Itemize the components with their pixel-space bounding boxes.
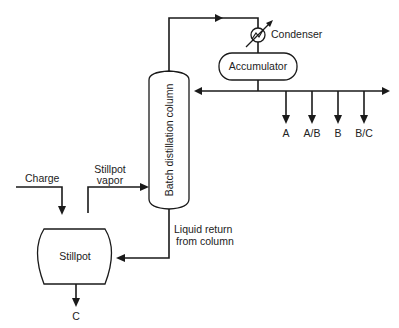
stillpot-vapor-arrow: [140, 183, 149, 191]
product-arrow-bc: [360, 115, 368, 124]
charge-label: Charge: [25, 172, 60, 184]
liquid-return-label-line2: from column: [176, 235, 234, 247]
overhead-flow-arrow: [215, 14, 223, 22]
bottoms-arrow: [72, 298, 80, 307]
condenser-label: Condenser: [271, 28, 323, 40]
product-label-bc: B/C: [355, 127, 373, 139]
reflux-arrow: [194, 87, 202, 95]
liquid-return-line: [124, 209, 169, 258]
accumulator-label: Accumulator: [229, 60, 288, 72]
batch-distillation-diagram: Condenser Accumulator A A/B B B/C Batch …: [0, 0, 399, 328]
product-label-b: B: [334, 127, 341, 139]
charge-arrow: [58, 206, 66, 215]
stillpot-vapor-label-line2: vapor: [97, 174, 124, 186]
header-outlet-arrow: [382, 87, 390, 95]
condenser-icon: [246, 20, 273, 47]
liquid-return-arrow: [116, 254, 125, 262]
product-label-a: A: [282, 127, 289, 139]
stillpot-vapor-line: [88, 187, 141, 213]
liquid-return-label-line1: Liquid return: [174, 223, 233, 235]
product-arrow-a: [282, 115, 290, 124]
stillpot-label: Stillpot: [59, 250, 91, 262]
product-arrow-ab: [308, 115, 316, 124]
product-arrow-b: [334, 115, 342, 124]
bottoms-label: C: [72, 310, 80, 322]
charge-line: [16, 187, 62, 207]
product-draw-offs: [282, 91, 368, 124]
column-label: Batch distillation column: [163, 84, 175, 197]
product-label-ab: A/B: [304, 127, 321, 139]
